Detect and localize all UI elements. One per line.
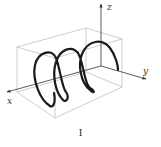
figure-caption: I: [0, 126, 161, 138]
z-axis-label: z: [106, 2, 112, 12]
axes: [7, 4, 146, 92]
x-axis-label: x: [7, 96, 12, 106]
helix-curve: [34, 42, 118, 107]
helix-diagram: x y z: [0, 0, 161, 147]
y-axis-label: y: [142, 66, 149, 76]
bounding-box: [17, 28, 122, 118]
y-axis: [101, 66, 146, 79]
